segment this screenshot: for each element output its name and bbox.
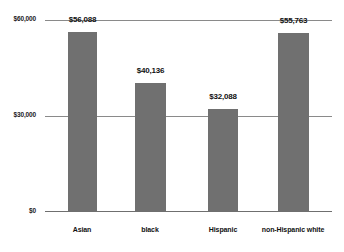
bar-black[interactable]	[135, 83, 166, 211]
x-tick-label-asian: Asian	[73, 226, 92, 233]
bar-chart: $60,000 $30,000 $0 $56,088 $40,136 $32,0…	[0, 0, 344, 252]
bar-value-label-hispanic: $32,088	[209, 92, 237, 101]
y-tick-label-0: $0	[29, 207, 36, 214]
y-axis: $60,000 $30,000 $0	[0, 0, 40, 252]
plot-area: $56,088 $40,136 $32,088 $55,763	[45, 20, 332, 212]
bar-asian[interactable]	[68, 32, 97, 211]
bar-group-black[interactable]: $40,136	[135, 20, 166, 212]
x-tick-label-hispanic: Hispanic	[209, 226, 237, 233]
x-axis: Asian black Hispanic non-Hispanic white	[45, 226, 332, 248]
y-tick-label-30000: $30,000	[14, 111, 36, 118]
x-tick-label-black: black	[141, 226, 158, 233]
bar-group-hispanic[interactable]: $32,088	[208, 20, 238, 212]
bar-group-non-hispanic-white[interactable]: $55,763	[278, 20, 309, 212]
x-tick-label-non-hispanic-white: non-Hispanic white	[262, 226, 324, 233]
bar-hispanic[interactable]	[208, 109, 238, 211]
y-tick-label-60000: $60,000	[14, 15, 36, 22]
bar-group-asian[interactable]: $56,088	[68, 20, 97, 212]
bar-value-label-asian: $56,088	[69, 15, 97, 24]
bar-value-label-non-hispanic-white: $55,763	[280, 16, 308, 25]
bar-value-label-black: $40,136	[137, 66, 165, 75]
bar-non-hispanic-white[interactable]	[278, 33, 309, 211]
